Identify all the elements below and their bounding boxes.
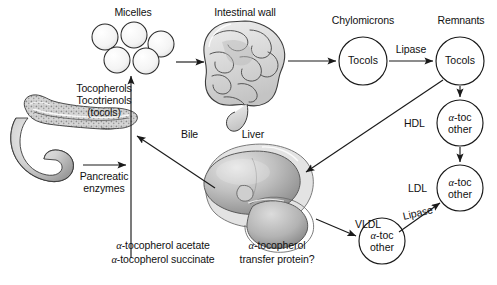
- pancreatic-label: Pancreatic: [80, 170, 129, 183]
- ldl-label: LDL: [408, 182, 427, 195]
- lipase-top-label: Lipase: [396, 43, 426, 56]
- bile-label: Bile: [181, 128, 198, 141]
- succinate-text: -tocopherol succinate: [117, 253, 215, 265]
- chylomicrons-label: Chylomicrons: [332, 14, 394, 27]
- remnants-label: Remnants: [437, 14, 484, 27]
- hdl-toc-text: -toc: [454, 111, 472, 123]
- intestinal-wall-label: Intestinal wall: [214, 6, 276, 19]
- ldl-particle-text: α-toc other: [448, 177, 472, 200]
- vldl-particle-text: α-toc other: [370, 230, 394, 253]
- tocopherols-label: Tocopherols: [76, 82, 132, 95]
- acetate-text: -tocopherol acetate: [122, 239, 210, 251]
- hdl-label: HDL: [404, 117, 425, 130]
- vldl-other-text: other: [370, 241, 394, 253]
- arrow-bile-to-micelles: [137, 136, 215, 188]
- chylomicron-tocols-text: Tocols: [348, 55, 378, 67]
- tocotrienols-label: Tocotrienols: [77, 94, 132, 107]
- liver-illustration: [204, 144, 314, 252]
- ldl-toc-text: -toc: [454, 176, 472, 188]
- liver-label: Liver: [242, 128, 264, 141]
- ttp-line2-label: transfer protein?: [240, 253, 315, 266]
- tocols-paren-label: (tocols): [87, 106, 121, 119]
- vitamin-e-pathway-diagram: Micelles Intestinal wall Chylomicrons Re…: [0, 0, 497, 285]
- arrow-liver-to-vldl: [316, 219, 356, 236]
- micelle-cluster: [92, 22, 174, 74]
- vldl-toc-text: -toc: [376, 229, 394, 241]
- alpha-tocopherol-acetate-label: α-tocopherol acetate: [116, 239, 209, 253]
- enzymes-label: enzymes: [83, 182, 124, 195]
- hdl-particle-text: α-toc other: [448, 112, 472, 135]
- ttp-line1-text: -tocopherol: [254, 239, 305, 251]
- intestine-illustration: [204, 21, 285, 131]
- alpha-tocopherol-succinate-label: α-tocopherol succinate: [111, 253, 214, 267]
- ldl-other-text: other: [448, 188, 472, 200]
- micelles-label: Micelles: [114, 6, 151, 19]
- hdl-other-text: other: [448, 123, 472, 135]
- remnant-tocols-text: Tocols: [445, 55, 475, 67]
- ttp-line1-label: α-tocopherol: [249, 239, 306, 253]
